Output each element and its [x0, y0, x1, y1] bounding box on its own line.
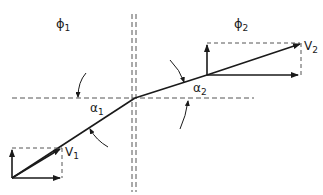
refracted-ray	[12, 44, 300, 178]
diagram-canvas: ϕ1 ϕ2 V1 V2 α1 α2	[0, 0, 323, 195]
region-label-phi2: ϕ2	[234, 16, 248, 33]
interface-lines	[132, 14, 136, 192]
angle-label-alpha2: α2	[193, 81, 207, 97]
angle-label-alpha1: α1	[90, 101, 104, 117]
vector-label-v1: V1	[65, 145, 79, 161]
vector-label-v2: V2	[304, 39, 318, 55]
angle-alpha2-arc	[170, 60, 188, 129]
v1-arrow-icon	[12, 149, 60, 178]
region-label-phi1: ϕ1	[56, 16, 70, 33]
